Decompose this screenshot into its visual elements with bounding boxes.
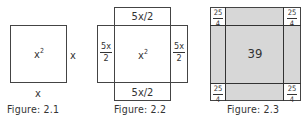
figure-caption: Figure: 2.1 — [7, 103, 59, 115]
left-fraction-label: 5x 2 — [99, 42, 113, 63]
figure-caption: Figure: 2.3 — [227, 103, 279, 115]
grid-line-v2 — [283, 7, 284, 101]
right-side-label: x — [68, 50, 78, 61]
corner-fraction-top-right: 25 4 — [285, 9, 299, 27]
center-label: 39 — [240, 47, 270, 60]
top-label: 5x/2 — [114, 11, 171, 22]
corner-fraction-bottom-left: 25 4 — [211, 85, 225, 103]
bottom-label: 5x/2 — [114, 87, 171, 98]
grid-line-v1 — [225, 7, 226, 101]
corner-fraction-top-left: 25 4 — [211, 9, 225, 27]
center-label: x2 — [132, 49, 154, 61]
bottom-side-label: x — [32, 88, 44, 99]
right-fraction-label: 5x 2 — [172, 42, 186, 63]
corner-fraction-bottom-right: 25 4 — [285, 85, 299, 103]
center-label: x2 — [28, 48, 50, 60]
figure-caption: Figure: 2.2 — [114, 103, 166, 115]
